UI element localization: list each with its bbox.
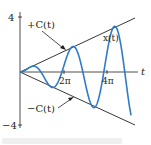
x-tick-label-2pi: 2π	[59, 76, 71, 86]
chart: 4 −4 t 2π 4π +C(t) −C(t) x(t)	[0, 0, 151, 145]
x-tick-label-4pi: 4π	[102, 76, 114, 86]
y-label-bottom: −4	[2, 120, 17, 131]
plus-c-label: +C(t)	[27, 19, 55, 30]
x-of-t-label: x(t)	[103, 33, 119, 43]
minus-c-arrow	[58, 99, 71, 108]
x-axis-label: t	[141, 66, 146, 77]
plus-c-arrow	[42, 31, 63, 48]
minus-c-label: −C(t)	[27, 103, 55, 114]
minus-c-envelope	[20, 72, 135, 125]
y-label-top: 4	[8, 12, 14, 23]
figure-caption-cutoff	[2, 138, 122, 144]
plus-c-arrowhead	[60, 45, 66, 50]
